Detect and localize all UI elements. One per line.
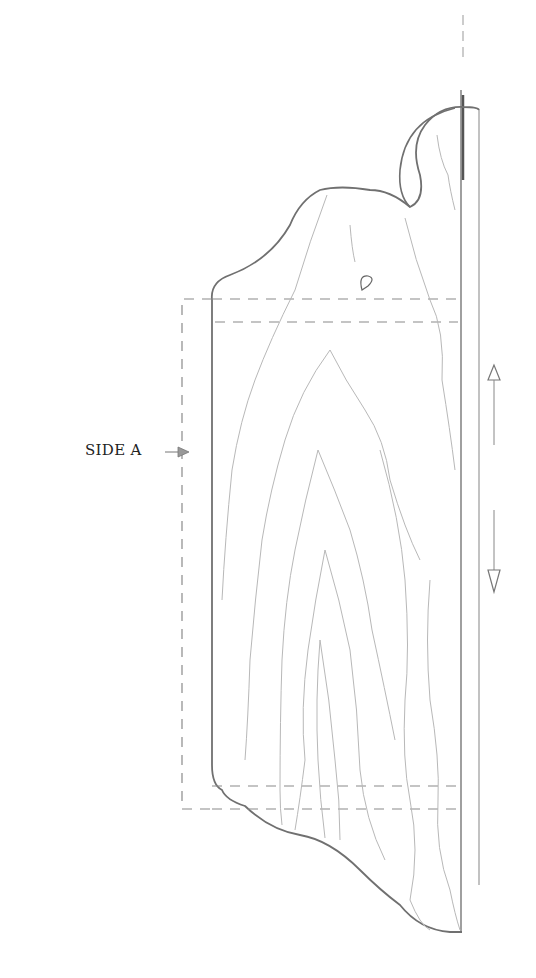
grain-arrow-down-icon — [488, 570, 500, 592]
panel-outline — [212, 107, 479, 932]
grain-arrow-up-icon — [488, 365, 500, 380]
side-a-bracket — [182, 299, 212, 809]
side-a-label: SIDE A — [85, 441, 142, 459]
side-a-arrow-head-icon — [178, 447, 189, 457]
side-panel-svg — [0, 0, 536, 978]
wood-grain — [222, 135, 460, 930]
pin-mark-icon — [361, 276, 372, 290]
